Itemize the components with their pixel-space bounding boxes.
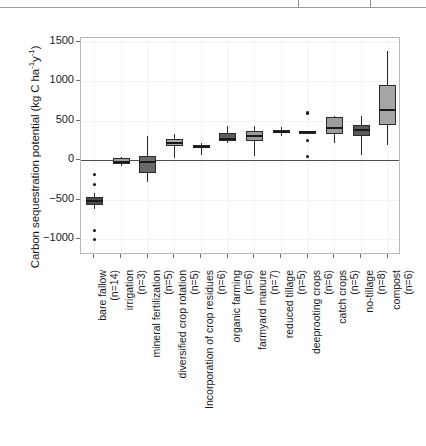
x-axis-label: catch crops(n=5) — [337, 270, 360, 440]
boxplot[interactable] — [273, 38, 290, 255]
x-axis-label: compost(n=6) — [391, 270, 414, 440]
x-axis-label: diversified crop rotation(n=5) — [177, 270, 200, 440]
whisker-lower — [94, 205, 95, 209]
header-rule — [0, 7, 426, 8]
x-axis-label-name: deeprooting crops — [310, 270, 322, 354]
x-axis-label-count: (n=5) — [349, 270, 361, 440]
y-axis-title-tail: ) — [29, 46, 41, 50]
box-iqr — [326, 117, 343, 134]
figure-panel: Carbon sequestration potential (kg C ha-… — [0, 0, 426, 446]
median-line — [246, 135, 263, 137]
x-axis-label-name: farmyard manure — [256, 270, 268, 350]
y-tick-label: 0 — [14, 152, 74, 164]
x-axis-label-count: (n=14) — [109, 270, 121, 440]
boxplot[interactable] — [86, 38, 103, 255]
x-axis-label-count: (n=6) — [216, 270, 228, 440]
outlier-point — [93, 183, 96, 186]
outlier-point — [306, 155, 309, 158]
whisker-upper — [387, 51, 388, 86]
x-axis-label: Incorporation of crop residues(n=6) — [204, 270, 227, 440]
y-tick-label: −500 — [14, 192, 74, 204]
whisker-lower — [387, 125, 388, 146]
whisker-upper — [361, 116, 362, 125]
whisker-lower — [281, 133, 282, 136]
x-axis-label-name: reduced tillage — [283, 270, 295, 338]
y-tick-label: 1500 — [14, 34, 74, 46]
whisker-upper — [227, 126, 228, 133]
x-axis-label: no-tillage(n=8) — [364, 270, 387, 440]
median-line — [326, 127, 343, 129]
header-rule-stub-left — [298, 0, 299, 7]
box-iqr — [139, 156, 156, 173]
x-axis-label-count: (n=3) — [136, 270, 148, 440]
x-axis-label-count: (n=6) — [402, 270, 414, 440]
boxplot[interactable] — [219, 38, 236, 255]
whisker-lower — [334, 134, 335, 143]
whisker-lower — [147, 173, 148, 182]
whisker-upper — [147, 136, 148, 157]
outlier-point — [306, 139, 309, 142]
boxplot[interactable] — [113, 38, 130, 255]
boxplot[interactable] — [166, 38, 183, 255]
boxplot[interactable] — [326, 38, 343, 255]
x-axis-label: farmyard manure(n=7) — [257, 270, 280, 440]
whisker-lower — [174, 146, 175, 158]
x-axis-labels: bare fallow(n=14)irrigation(n=3)mineral … — [0, 258, 426, 446]
y-tick-label: 1000 — [14, 73, 74, 85]
x-axis-label-count: (n=8) — [376, 270, 388, 440]
x-axis-label-count: (n=5) — [296, 270, 308, 440]
x-axis-label-name: no-tillage — [363, 270, 375, 313]
median-line — [353, 129, 370, 131]
outlier-point — [93, 173, 96, 176]
boxplot[interactable] — [353, 38, 370, 255]
boxplot[interactable] — [379, 38, 396, 255]
plot-panel — [80, 37, 400, 254]
median-line — [219, 138, 236, 140]
median-line — [193, 146, 210, 148]
x-axis-label: deeprooting crops(n=6) — [311, 270, 334, 440]
x-axis-label-name: bare fallow — [96, 270, 108, 321]
x-axis-label: reduced tillage(n=5) — [284, 270, 307, 440]
boxplot[interactable] — [193, 38, 210, 255]
boxplot[interactable] — [246, 38, 263, 255]
median-line — [166, 142, 183, 144]
whisker-lower — [121, 164, 122, 166]
outlier-point — [93, 238, 96, 241]
median-line — [299, 131, 316, 133]
y-axis-title-mid: y — [29, 56, 41, 62]
y-axis-title-exp1: -1 — [27, 62, 36, 69]
median-line — [113, 161, 130, 163]
x-axis-label-count: (n=6) — [242, 270, 254, 440]
median-line — [379, 109, 396, 111]
x-axis-label-count: (n=5) — [189, 270, 201, 440]
x-axis-label-name: Incorporation of crop residues — [203, 270, 215, 409]
x-axis-label-count: (n=6) — [322, 270, 334, 440]
median-line — [273, 131, 290, 133]
boxplot[interactable] — [299, 38, 316, 255]
x-axis-label-name: diversified crop rotation — [176, 270, 188, 379]
x-axis-label-name: organic farming — [230, 270, 242, 342]
x-axis-label-name: mineral fertilization — [150, 270, 162, 358]
whisker-lower — [201, 148, 202, 154]
x-axis-label: mineral fertilization(n=5) — [151, 270, 174, 440]
whisker-lower — [227, 141, 228, 143]
x-axis-label-name: compost — [390, 270, 402, 310]
median-line — [139, 161, 156, 163]
box-iqr — [379, 85, 396, 124]
boxplot[interactable] — [139, 38, 156, 255]
x-axis-label: irrigation(n=3) — [124, 270, 147, 440]
header-rule-stub-right — [370, 0, 371, 7]
x-axis-label-count: (n=7) — [269, 270, 281, 440]
y-axis-title-exp2: -1 — [27, 49, 36, 56]
y-tick-label: 500 — [14, 113, 74, 125]
whisker-lower — [254, 141, 255, 156]
x-axis-label-name: catch crops — [336, 270, 348, 324]
y-tick-label: −1000 — [14, 231, 74, 243]
median-line — [86, 200, 103, 202]
x-axis-label: organic farming(n=6) — [231, 270, 254, 440]
x-axis-label: bare fallow(n=14) — [97, 270, 120, 440]
x-axis-label-count: (n=5) — [162, 270, 174, 440]
whisker-lower — [361, 136, 362, 155]
outlier-point — [93, 229, 96, 232]
outlier-point — [306, 111, 309, 114]
